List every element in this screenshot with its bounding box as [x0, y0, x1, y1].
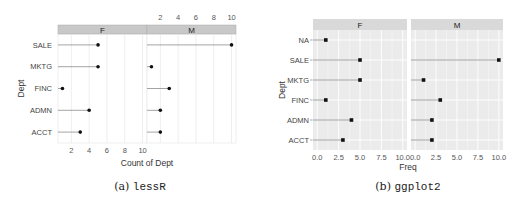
- x-tick-label-top: 10: [227, 13, 235, 22]
- data-point: [324, 98, 328, 102]
- caption-code: lessR: [133, 181, 166, 193]
- data-point: [341, 138, 345, 142]
- x-tick-label: 10: [138, 146, 146, 155]
- data-point: [96, 43, 100, 47]
- x-tick-label: 2.5: [333, 153, 343, 162]
- x-tick-label: 2: [69, 146, 73, 155]
- data-point: [358, 78, 362, 82]
- x-tick-label: 10.0: [395, 153, 410, 162]
- category-label: ADMN: [30, 106, 52, 115]
- category-label: MKTG: [287, 76, 309, 85]
- caption-prefix: (a): [114, 180, 133, 193]
- x-tick-label: 10.0: [492, 153, 507, 162]
- x-tick-label: 7.5: [376, 153, 386, 162]
- data-point: [159, 130, 163, 134]
- category-label: ACCT: [32, 128, 53, 137]
- data-point: [438, 98, 442, 102]
- category-label: MKTG: [30, 62, 52, 71]
- category-label: ADMN: [287, 116, 309, 125]
- facet-label: F: [358, 21, 363, 30]
- facet-label: M: [454, 21, 461, 30]
- x-tick-label: 5.0: [355, 153, 365, 162]
- x-tick-label-top: 4: [176, 13, 180, 22]
- category-label: SALE: [290, 56, 309, 65]
- x-tick-label: 8: [123, 146, 127, 155]
- data-point: [497, 58, 501, 62]
- caption-prefix: (b): [375, 180, 394, 193]
- x-tick-label: 6: [105, 146, 109, 155]
- data-point: [159, 109, 163, 113]
- category-label: FINC: [35, 84, 53, 93]
- data-point: [78, 130, 82, 134]
- category-label: NA: [299, 36, 309, 45]
- x-axis-title: Freq: [399, 162, 417, 172]
- data-point: [150, 65, 154, 69]
- x-tick-label: 2.5: [431, 153, 441, 162]
- chart-figure: FMSALEMKTGFINCADMNACCTDept246810246810Co…: [0, 0, 524, 201]
- facet-label: M: [188, 26, 195, 35]
- data-point: [167, 87, 171, 91]
- category-label: SALE: [33, 41, 52, 50]
- data-point: [96, 65, 100, 69]
- data-point: [430, 138, 434, 142]
- data-point: [358, 58, 362, 62]
- x-tick-label: 4: [87, 146, 91, 155]
- data-point: [324, 38, 328, 42]
- data-point: [422, 78, 426, 82]
- x-tick-label: 7.5: [473, 153, 483, 162]
- x-tick-label: 0.0: [410, 153, 420, 162]
- x-tick-label: 5.0: [452, 153, 462, 162]
- y-axis-title: Dept: [277, 80, 287, 99]
- x-tick-label-top: 2: [158, 13, 162, 22]
- facet-label: F: [100, 26, 105, 35]
- category-label: ACCT: [289, 136, 310, 145]
- category-label: FINC: [292, 96, 310, 105]
- data-point: [230, 43, 234, 47]
- figure-caption: (a) lessR: [114, 180, 166, 193]
- data-point: [61, 87, 65, 91]
- caption-code: ggplot2: [394, 181, 440, 193]
- data-point: [87, 109, 91, 113]
- x-tick-label: 0.0: [312, 153, 322, 162]
- x-tick-label-top: 8: [212, 13, 216, 22]
- x-axis-title: Count of Dept: [121, 158, 174, 168]
- x-tick-label-top: 6: [194, 13, 198, 22]
- data-point: [430, 118, 434, 122]
- figure-caption: (b) ggplot2: [375, 180, 440, 193]
- y-axis-title: Dept: [16, 79, 26, 98]
- data-point: [350, 118, 354, 122]
